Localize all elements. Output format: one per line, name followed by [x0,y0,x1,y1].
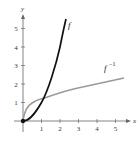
y-axis-label: y [20,5,25,13]
inverse-function-label: f [104,63,108,73]
x-tick-label: 1 [40,125,44,133]
x-tick-label: 2 [58,125,62,133]
function-inverse-chart: 1 2 3 4 5 x 1 2 3 4 5 y f f −1 [0,0,140,141]
function-label: f [68,20,72,30]
y-axis-arrow-icon [21,14,25,19]
y-tick-label: 3 [14,62,18,70]
x-axis-label: x [132,117,137,125]
inverse-superscript: −1 [109,61,115,67]
inverse-function-curve [23,78,124,121]
x-ticks: 1 2 3 4 5 x [40,117,137,133]
y-tick-label: 2 [14,81,18,89]
origin-point [21,119,25,123]
y-tick-label: 1 [14,99,18,107]
x-tick-label: 3 [77,125,81,133]
y-tick-label: 5 [14,25,18,33]
axes [14,14,131,132]
x-tick-label: 5 [114,125,118,133]
x-tick-label: 4 [95,125,99,133]
y-tick-label: 4 [14,44,18,52]
x-axis-arrow-icon [126,119,131,123]
